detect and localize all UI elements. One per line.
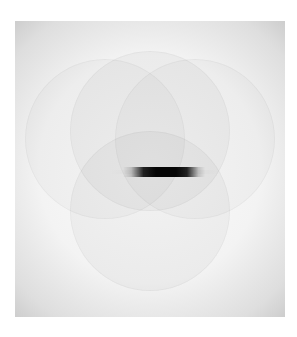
center-dark-bar (123, 167, 205, 177)
circle-bottom (70, 131, 230, 291)
pattern-frame (15, 21, 285, 317)
